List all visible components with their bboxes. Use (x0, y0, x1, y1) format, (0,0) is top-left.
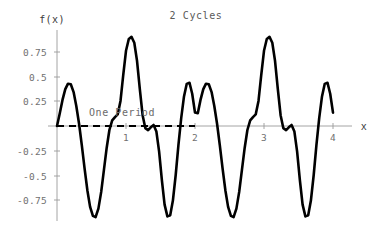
y-axis-label: f(x) (39, 14, 65, 25)
plot-figure: 0.75 0.5 0.25 -0.25 -0.5 -0.75 1 2 3 4 f… (0, 0, 376, 233)
y-tick-label-4: -0.5 (23, 171, 47, 182)
x-tick-label-0: 1 (123, 132, 129, 143)
y-tick-label-5: -0.75 (17, 195, 47, 206)
x-tick-label-1: 2 (192, 132, 198, 143)
y-tick-label-0: 0.75 (23, 47, 47, 58)
plot-title: 2 Cycles (170, 10, 223, 21)
x-axis-label: x (361, 121, 367, 132)
y-tick-label-1: 0.5 (29, 72, 47, 83)
y-tick-label-3: -0.25 (17, 146, 47, 157)
one-period-annotation: One Period (89, 107, 155, 118)
x-tick-label-2: 3 (261, 132, 267, 143)
x-tick-label-3: 4 (330, 132, 336, 143)
plot-canvas: 0.75 0.5 0.25 -0.25 -0.5 -0.75 1 2 3 4 f… (0, 0, 376, 233)
y-tick-label-2: 0.25 (23, 96, 47, 107)
